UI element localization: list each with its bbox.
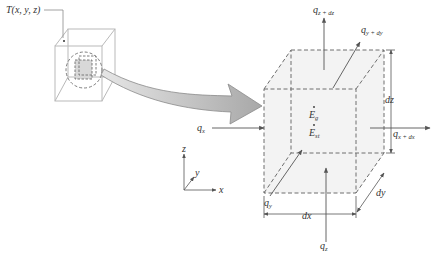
magnification-arrow-icon	[101, 69, 262, 124]
control-volume-figure: T(x, y, z)	[0, 0, 439, 256]
diagram-canvas: T(x, y, z)	[0, 0, 439, 256]
dz-label: dz	[385, 94, 394, 105]
qx-label: qx	[197, 122, 205, 134]
dx-label: dx	[302, 210, 312, 221]
qy-label: qy	[264, 197, 272, 209]
differential-control-volume	[264, 50, 384, 193]
point-marker-icon	[63, 40, 65, 42]
magnified-region	[66, 52, 102, 88]
x-axis-label: x	[218, 184, 224, 195]
dot-accent-icon	[313, 124, 315, 126]
qz-label: qz	[320, 240, 328, 252]
y-axis-icon	[184, 177, 194, 190]
y-axis-label: y	[194, 167, 200, 178]
dy-label: dy	[376, 187, 386, 198]
qy-dy-label: qy + dy	[361, 24, 383, 36]
coordinate-axes	[184, 154, 216, 190]
dot-accent-icon	[313, 106, 315, 108]
qx-dx-label: qx + dx	[393, 128, 415, 140]
point-label: T(x, y, z)	[6, 4, 41, 16]
qz-dz-label: qz + dz	[313, 4, 334, 16]
z-axis-label: z	[181, 143, 186, 154]
